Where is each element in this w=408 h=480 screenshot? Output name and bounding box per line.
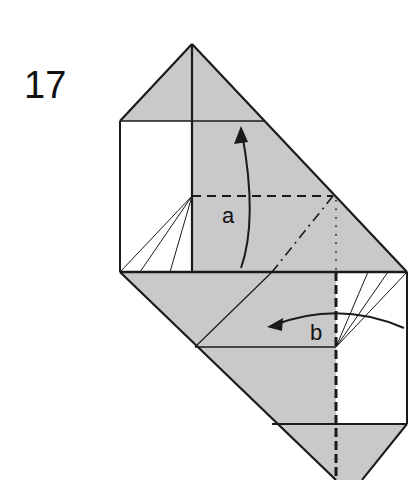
lower-right-white-square [336, 272, 407, 424]
fold-label-a: a [222, 203, 235, 228]
fold-label-b: b [310, 320, 322, 345]
origami-fold-diagram: a b [0, 0, 408, 480]
lower-right-gray-triangle [336, 424, 407, 480]
